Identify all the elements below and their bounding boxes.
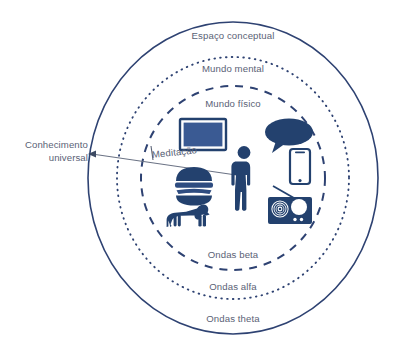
label-espaco-conceptual: Espaço conceptual [192,30,275,42]
label-ondas-beta: Ondas beta [208,249,259,261]
label-ondas-theta: Ondas theta [206,313,259,325]
label-ondas-alfa: Ondas alfa [209,281,256,293]
diagram-canvas: Conhecimento universal Espaço conceptual… [0,0,420,353]
conhecimento-line-2: universal [49,152,88,163]
dog-icon [167,204,210,227]
hamburger-icon [175,167,213,206]
conhecimento-line-1: Conhecimento [25,139,88,150]
speech-bubble-icon [265,119,313,154]
radio-icon [268,186,312,224]
label-mundo-fisico: Mundo físico [205,98,261,110]
diagram-svg [0,0,420,353]
label-mundo-mental: Mundo mental [202,63,264,75]
label-conhecimento-universal: Conhecimento universal [10,138,88,164]
smartphone-icon [290,149,310,184]
person-icon [231,146,250,211]
